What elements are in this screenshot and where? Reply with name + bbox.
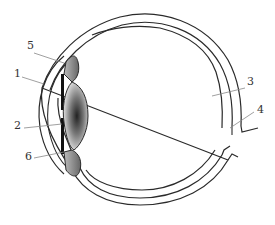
retina-layer bbox=[86, 26, 222, 190]
eye-cross-section-svg bbox=[0, 0, 275, 225]
label-4: 4 bbox=[257, 104, 264, 115]
leader-line-2 bbox=[24, 124, 62, 128]
leader-line-4 bbox=[230, 112, 254, 128]
optic-nerve bbox=[241, 126, 258, 132]
label-3: 3 bbox=[247, 76, 254, 87]
leader-line-5 bbox=[34, 53, 64, 63]
leader-lines bbox=[22, 53, 254, 158]
ciliary-body-lower bbox=[64, 150, 81, 176]
label-1: 1 bbox=[14, 68, 21, 79]
label-5: 5 bbox=[27, 40, 34, 51]
eye-diagram: 1 2 3 4 5 6 bbox=[0, 0, 275, 225]
label-2: 2 bbox=[14, 120, 21, 131]
iris-lower bbox=[61, 118, 64, 154]
ciliary-body-upper bbox=[64, 56, 79, 82]
leader-line-1 bbox=[22, 77, 44, 84]
label-6: 6 bbox=[25, 151, 32, 162]
